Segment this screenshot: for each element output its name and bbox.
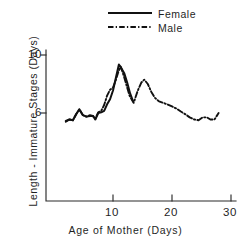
legend-label-female: Female [158,8,196,20]
series-line-male [66,67,219,122]
x-axis-title: Age of Mother (Days) [0,224,251,236]
axes-group [41,50,236,201]
x-tick-label-10: 10 [105,206,119,218]
series-line-female [66,64,133,121]
x-tick-label-20: 20 [164,206,178,218]
legend-group [108,13,152,27]
axis-lines [46,50,236,201]
x-tick-label-30: 30 [223,206,237,218]
chart-figure: Female Male 10 6 10 20 30 Age of Mother … [0,0,251,246]
y-axis-title: Length - Immature Stages (Days) [27,26,39,216]
legend-label-male: Male [158,22,183,34]
series-group [66,64,219,121]
